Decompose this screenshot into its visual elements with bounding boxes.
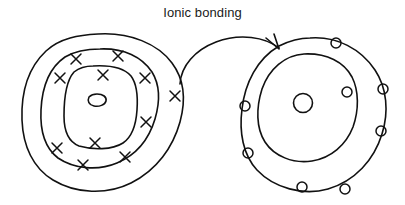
right-atom-shell-2 (241, 38, 386, 192)
arrow-shaft (180, 37, 279, 84)
electron-x (113, 51, 123, 61)
electron-x (90, 138, 100, 148)
left-atom-electrons (52, 51, 151, 170)
electron-o (342, 87, 352, 97)
left-atom-outer-electron (170, 91, 180, 101)
electron-x (170, 91, 180, 101)
electron-x (52, 143, 62, 153)
electron-x (98, 70, 108, 80)
sketch-canvas (0, 0, 405, 205)
right-atom-group (240, 38, 388, 194)
right-atom-nucleus (294, 94, 313, 113)
right-atom-shell-1 (258, 54, 358, 162)
ionic-bonding-diagram: Ionic bonding (0, 0, 405, 205)
electron-x (55, 73, 65, 83)
left-atom-group (22, 34, 183, 192)
left-atom-nucleus (88, 94, 106, 106)
electron-o (240, 101, 250, 111)
electron-x (71, 54, 81, 64)
electron-x (141, 117, 151, 127)
electron-x (140, 73, 150, 83)
electron-o (331, 38, 341, 48)
electron-o (340, 184, 350, 194)
electron-x (78, 160, 88, 170)
electron-o (376, 126, 386, 136)
right-atom-electrons (240, 38, 388, 194)
